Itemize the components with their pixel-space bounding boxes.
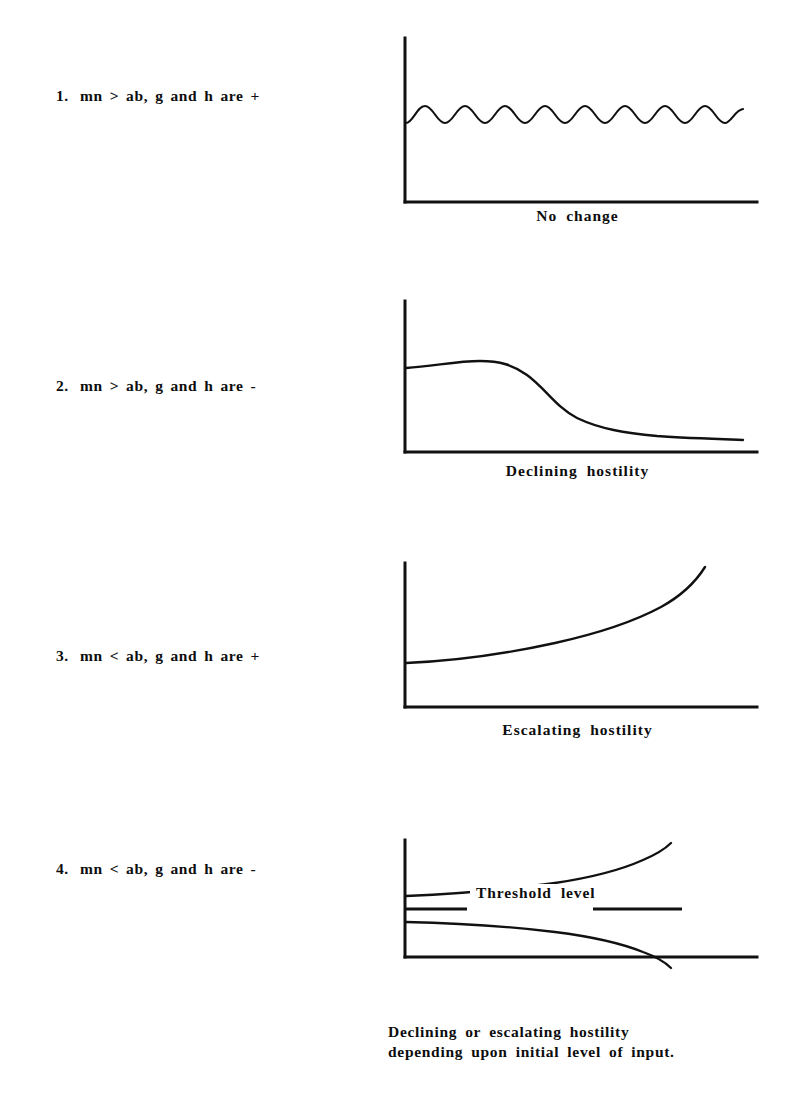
- caption-word: No: [536, 207, 557, 225]
- condition-number-2: 2.: [56, 377, 80, 395]
- caption-word: Escalating: [502, 721, 581, 739]
- condition-label-2: 2.mn > ab, g and h are -: [56, 377, 256, 395]
- condition-label-1: 1.mn > ab, g and h are +: [56, 87, 260, 105]
- data-curve-declining: [406, 361, 743, 440]
- condition-label-3: 3.mn < ab, g and h are +: [56, 647, 260, 665]
- caption-word: depending: [388, 1042, 463, 1062]
- caption-no-change: Nochange: [395, 207, 760, 225]
- threshold-word: level: [561, 884, 596, 902]
- caption-word: escalating: [489, 1022, 561, 1042]
- condition-expression-2: mn > ab, g and h are -: [80, 377, 256, 395]
- caption-word: Declining: [506, 462, 578, 480]
- caption-declining-hostility: Declininghostility: [395, 462, 760, 480]
- data-curve-escalating: [406, 567, 705, 663]
- data-curve-lower-declining: [406, 922, 671, 968]
- threshold-word: Threshold: [476, 884, 552, 902]
- caption-threshold-divergence: Decliningorescalatinghostility depending…: [388, 1022, 788, 1062]
- caption-line-1: Decliningorescalatinghostility: [388, 1022, 788, 1042]
- condition-expression-3: mn < ab, g and h are +: [80, 647, 260, 665]
- chart-panel-declining-hostility: [395, 295, 765, 465]
- chart-svg-escalating: [395, 555, 765, 720]
- condition-number-1: 1.: [56, 87, 80, 105]
- condition-expression-1: mn > ab, g and h are +: [80, 87, 260, 105]
- condition-number-4: 4.: [56, 860, 80, 878]
- condition-number-3: 3.: [56, 647, 80, 665]
- condition-label-4: 4.mn < ab, g and h are -: [56, 860, 256, 878]
- caption-word: upon: [471, 1042, 507, 1062]
- data-curve-oscillation: [406, 106, 743, 123]
- caption-escalating-hostility: Escalatinghostility: [395, 721, 760, 739]
- caption-word: initial: [516, 1042, 560, 1062]
- caption-word: level: [567, 1042, 601, 1062]
- condition-expression-4: mn < ab, g and h are -: [80, 860, 256, 878]
- caption-word: hostility: [570, 1022, 630, 1042]
- chart-panel-escalating-hostility: [395, 555, 765, 720]
- threshold-level-label: Thresholdlevel: [470, 884, 602, 902]
- caption-word: hostility: [587, 462, 649, 480]
- figure-page: 1.mn > ab, g and h are + 2.mn > ab, g an…: [0, 0, 794, 1098]
- caption-word: Declining: [388, 1022, 457, 1042]
- chart-svg-no-change: [395, 30, 765, 215]
- chart-svg-declining: [395, 295, 765, 465]
- caption-word: change: [566, 207, 619, 225]
- caption-word: or: [465, 1022, 481, 1042]
- caption-word: hostility: [590, 721, 652, 739]
- caption-line-2: dependinguponinitiallevelofinput.: [388, 1042, 788, 1062]
- caption-word: of: [609, 1042, 623, 1062]
- caption-word: input.: [631, 1042, 674, 1062]
- chart-panel-no-change: [395, 30, 765, 215]
